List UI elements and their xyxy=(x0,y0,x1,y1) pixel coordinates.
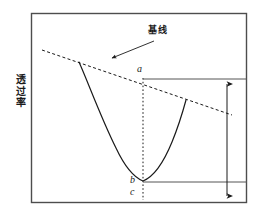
y-axis-label: 透过率 xyxy=(12,74,30,109)
plot-frame xyxy=(32,14,247,203)
point-label-c: c xyxy=(130,186,134,197)
baseline-caption: 基线 xyxy=(148,23,167,36)
transmittance-spectrum-figure: 透过率 基线 a b c xyxy=(0,0,269,215)
point-label-b: b xyxy=(130,174,135,185)
point-label-a: a xyxy=(137,63,142,74)
